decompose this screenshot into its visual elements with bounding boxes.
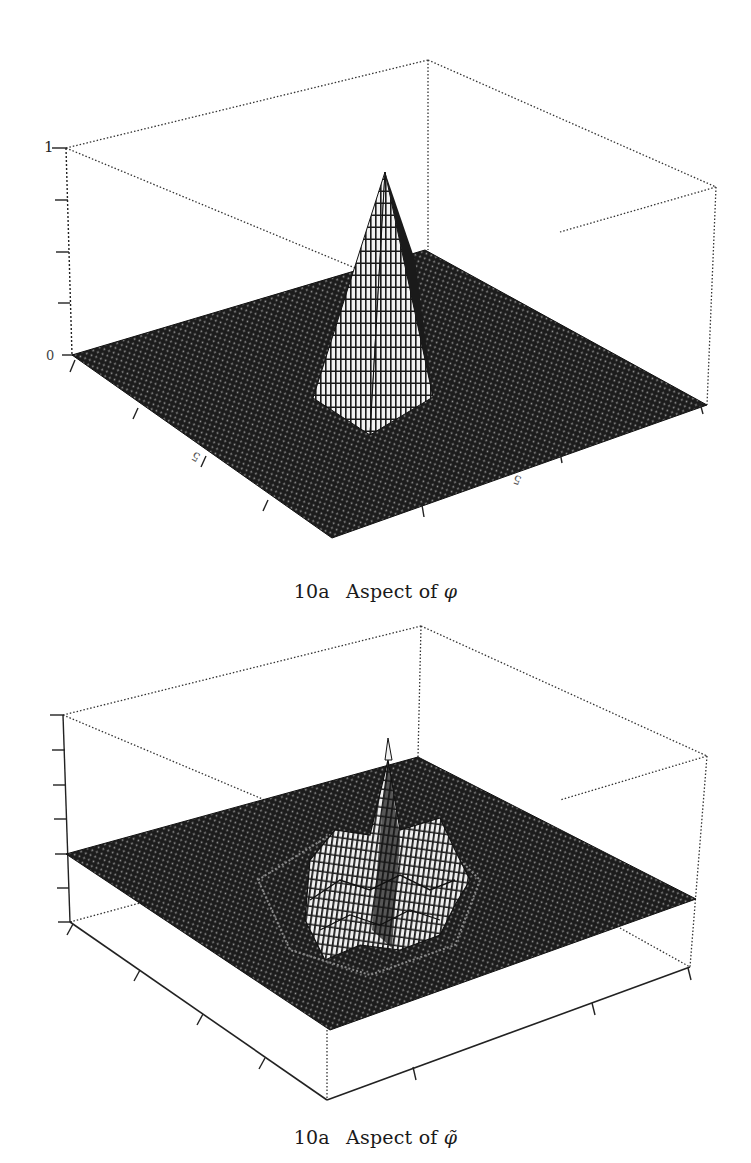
caption-text: Aspect of <box>346 580 437 602</box>
figure-phi: 1 0 5 5 10a Aspect of φ <box>0 0 751 600</box>
figure-caption-phi-tilde: 10a Aspect of φ̃ <box>0 1126 751 1148</box>
figure-phi-tilde: 10a Aspect of φ̃ <box>0 600 751 1163</box>
caption-number: 10a <box>294 580 330 602</box>
z-tick-label-1: 1 <box>44 138 54 156</box>
x-tick-label: 5 <box>189 449 203 465</box>
z-axis <box>52 148 76 355</box>
caption-number: 10a <box>294 1126 330 1148</box>
caption-text: Aspect of <box>346 1126 437 1148</box>
z-axis <box>50 715 72 922</box>
surface-plot-phi: 1 0 5 5 <box>0 0 751 560</box>
z-tick-label-0: 0 <box>46 348 54 363</box>
caption-symbol: φ <box>444 580 458 602</box>
caption-symbol: φ̃ <box>444 1126 458 1148</box>
figure-caption-phi: 10a Aspect of φ <box>0 580 751 602</box>
surface-plot-phi-tilde <box>0 600 751 1120</box>
